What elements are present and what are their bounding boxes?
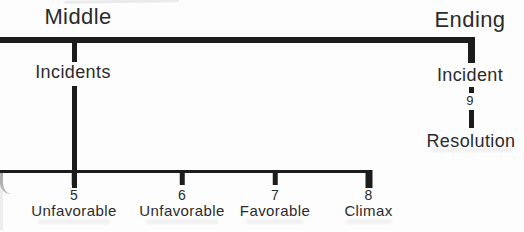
tick-label: Favorable [240,203,310,218]
tick-mark [72,170,77,185]
ending-section-title: Ending [435,9,506,31]
middle-section-title: Middle [44,6,111,28]
scan-artifact-bleed [346,219,392,224]
tick-number: 6 [178,188,186,202]
resolution-label: Resolution [426,132,515,150]
tick-label: Climax [344,203,392,218]
scan-artifact-bleed [246,219,304,224]
scan-artifact-left-curve [0,172,11,194]
tick-number: 8 [365,188,373,202]
tick-mark [273,170,278,185]
scale-axis-line [0,170,371,173]
tick-label: Unfavorable [139,203,224,218]
ending-dash-lower [469,110,474,128]
tick-number: 7 [271,188,279,202]
middle-branch-line-upper [72,42,77,62]
scan-artifact-bleed [38,219,110,224]
ending-branch-line-upper [468,42,475,63]
tick-mark [365,170,372,188]
plot-structure-diagram: Middle Ending Incidents Incident 9 Resol… [0,0,524,232]
tick-number: 5 [70,188,78,202]
scan-artifact-left-smear [0,186,3,230]
incidents-label: Incidents [35,63,111,81]
point-9-number: 9 [466,94,474,107]
tick-label: Unfavorable [31,203,116,218]
tick-mark [180,170,185,185]
incident-label: Incident [437,66,503,84]
scan-artifact-bleed [146,219,218,224]
